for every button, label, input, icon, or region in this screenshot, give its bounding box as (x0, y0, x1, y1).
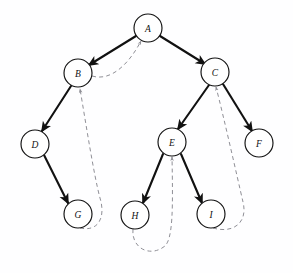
node-b-label: B (75, 69, 81, 79)
nodes-group: A B C D E F G (21, 14, 273, 229)
tree-edge-d-g (44, 155, 68, 203)
node-a[interactable]: A (134, 14, 162, 42)
tree-edge-c-e (178, 85, 209, 129)
node-b[interactable]: B (64, 59, 92, 87)
tree-edge-e-h (143, 154, 163, 203)
tree-edge-a-c (160, 36, 205, 64)
graph-canvas: A B C D E F G (0, 0, 293, 273)
graph-diagram: A B C D E F G (0, 0, 293, 273)
node-c-label: C (212, 68, 219, 78)
node-i[interactable]: I (197, 200, 225, 228)
tree-edge-c-f (223, 84, 252, 131)
node-e[interactable]: E (158, 128, 186, 156)
node-g-label: G (75, 210, 82, 220)
node-d[interactable]: D (21, 130, 49, 158)
node-c[interactable]: C (201, 58, 229, 86)
node-a-label: A (144, 24, 151, 34)
node-h-label: H (131, 211, 140, 221)
node-h[interactable]: H (121, 201, 149, 229)
node-e-label: E (168, 138, 175, 148)
tree-edge-b-d (42, 86, 71, 131)
node-d-label: D (31, 140, 39, 150)
node-f[interactable]: F (245, 129, 273, 157)
tree-edge-e-i (181, 154, 202, 203)
node-g[interactable]: G (64, 200, 92, 228)
tree-edge-a-b (89, 36, 136, 65)
node-f-label: F (255, 139, 262, 149)
